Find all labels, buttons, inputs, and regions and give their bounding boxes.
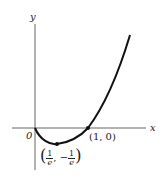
root-point: [86, 126, 90, 130]
y-axis-label: y: [30, 12, 36, 22]
minimum-label: (1e, −1e): [40, 146, 81, 167]
y-sign: −: [60, 152, 68, 163]
x-axis-label: x: [150, 123, 156, 133]
root-label: (1, 0): [89, 131, 116, 142]
graph-canvas: [0, 0, 163, 181]
x-denominator: e: [46, 159, 53, 167]
origin-label: 0: [26, 131, 32, 141]
